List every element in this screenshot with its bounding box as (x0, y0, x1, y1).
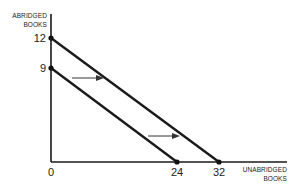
point-x-32 (216, 159, 221, 164)
x-axis-title-line1: UNABRIDGED (243, 166, 288, 173)
y-axis-title-line1: ABRIDGED (12, 12, 47, 19)
budget-line-chart: ABRIDGED BOOKS 12 9 0 24 32 UNABRIDGED B… (0, 0, 301, 188)
y-tick-12: 12 (34, 32, 46, 44)
shifted-budget-line (51, 38, 219, 162)
x-tick-24: 24 (171, 166, 183, 178)
x-axis-title-line2: BOOKS (263, 175, 287, 182)
y-tick-9: 9 (40, 62, 46, 74)
point-x-24 (174, 159, 179, 164)
y-axis-title-line2: BOOKS (23, 21, 47, 28)
point-y-9 (48, 65, 53, 70)
original-budget-line (51, 68, 177, 162)
x-tick-32: 32 (213, 166, 225, 178)
point-y-12 (48, 35, 53, 40)
shift-arrow-lower (148, 133, 180, 139)
shift-arrow-upper (72, 75, 104, 81)
x-tick-0: 0 (48, 166, 54, 178)
